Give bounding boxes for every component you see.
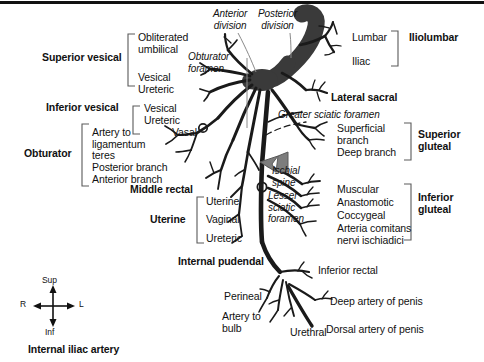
group-label-inferior-gluteal: Inferior gluteal <box>418 192 453 215</box>
branch-lateral-sacral: Lateral sacral <box>331 92 397 103</box>
compass-label-left: L <box>79 300 84 309</box>
branch-perineal: Perineal <box>224 291 262 302</box>
figure-caption: Internal iliac artery <box>28 344 119 355</box>
branch-iliac: Iliac <box>352 56 370 67</box>
branch-anastomotic: Anastomotic <box>337 197 394 208</box>
group-label-uterine: Uterine <box>150 214 185 225</box>
branch-muscular: Muscular <box>337 184 379 195</box>
branch-ureteric-inferior: Ureteric <box>144 115 180 126</box>
branch-vasal: Vasal <box>172 127 197 138</box>
obturator-foramen-label: Obturator foramen <box>188 51 229 74</box>
group-label-inferior-vesical: Inferior vesical <box>46 102 119 113</box>
branch-superficial: Superficial branch <box>337 123 385 146</box>
anterior-division-label: Anterior division <box>213 8 247 31</box>
lesser-sciatic-foramen-label: Lesser sciatic foramen <box>268 190 304 225</box>
branch-vesical-superior: Vesical <box>138 72 171 83</box>
compass-label-inf: Inf <box>45 328 54 337</box>
compass-label-sup: Sup <box>42 276 57 285</box>
branch-vesical-inferior: Vesical <box>144 103 177 114</box>
branch-internal-pudendal: Internal pudendal <box>178 256 264 267</box>
branch-arteria-comitans: Arteria comitans nervi ischiadici <box>337 223 411 246</box>
branch-inferior-rectal: Inferior rectal <box>318 265 378 276</box>
branch-lumbar: Lumbar <box>352 32 387 43</box>
ischial-spine-label: Ischial spine <box>272 165 300 188</box>
branch-artery-to-bulb: Artery to bulb <box>222 311 261 334</box>
figure-canvas: Anterior division Posterior division Sup… <box>0 0 484 362</box>
branch-dorsal-artery-of-penis: Dorsal artery of penis <box>326 324 424 335</box>
branch-obliterated-umbilical: Obliterated umbilical <box>138 32 188 55</box>
group-label-superior-vesical: Superior vesical <box>42 52 122 63</box>
branch-vaginal: Vaginal <box>206 214 240 225</box>
branch-artery-to-ligamentum-teres: Artery to ligamentum teres <box>92 127 145 162</box>
orientation-compass <box>33 285 75 327</box>
group-label-obturator: Obturator <box>24 148 72 159</box>
branch-coccygeal: Coccygeal <box>337 210 385 221</box>
greater-sciatic-foramen-label: Greater sciatic foramen <box>278 110 380 121</box>
branch-urethral: Urethral <box>290 327 327 338</box>
compass-label-right: R <box>20 300 26 309</box>
group-label-iliolumbar: Iliolumbar <box>409 32 458 43</box>
branch-deep-artery-of-penis: Deep artery of penis <box>330 296 423 307</box>
branch-ureteric-superior: Ureteric <box>138 84 174 95</box>
branch-uterine: Uterine <box>206 196 239 207</box>
branch-deep: Deep branch <box>337 147 396 158</box>
posterior-division-label: Posterior division <box>258 8 297 31</box>
branch-posterior: Posterior branch <box>92 162 167 173</box>
group-label-superior-gluteal: Superior gluteal <box>418 129 460 152</box>
branch-middle-rectal: Middle rectal <box>130 184 193 195</box>
branch-ureteric-uterine: Ureteric <box>206 233 242 244</box>
